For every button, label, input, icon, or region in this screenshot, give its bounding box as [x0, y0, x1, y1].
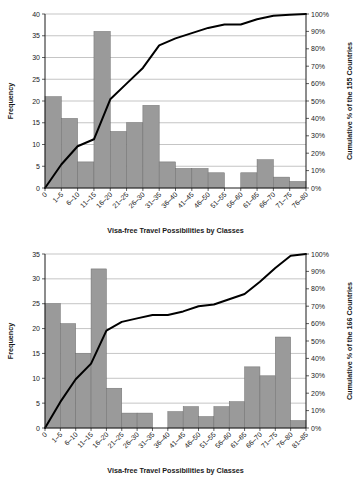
bar — [168, 412, 183, 428]
y2-tick-label: 100% — [311, 11, 329, 18]
y-tick-label: 40 — [32, 11, 40, 18]
chart-bottom-166-countries: 051015202530350%10%20%30%40%50%60%70%80%… — [0, 240, 358, 480]
bar — [61, 118, 77, 188]
y2-tick-label: 50% — [311, 338, 325, 345]
chart-svg-top: 05101520253035400%10%20%30%40%50%60%70%8… — [0, 0, 358, 240]
x-category-label: 71–75 — [274, 191, 293, 210]
bar — [257, 160, 273, 188]
bar — [183, 407, 198, 428]
x-category-label: 81–85 — [290, 431, 309, 450]
x-category-label: 41–45 — [176, 191, 195, 210]
y2-axis-title: Cumulative % of the 155 Countries — [345, 42, 354, 160]
bar — [199, 417, 214, 428]
y-tick-label: 20 — [32, 98, 40, 105]
y-tick-label: 25 — [32, 76, 40, 83]
bar — [110, 131, 126, 188]
y2-tick-label: 90% — [311, 28, 325, 35]
x-category-label: 61–65 — [229, 431, 248, 450]
x-category-label: 46–50 — [193, 191, 212, 210]
y-tick-label: 5 — [36, 163, 40, 170]
y2-tick-label: 20% — [311, 150, 325, 157]
x-category-label: 51–55 — [209, 191, 228, 210]
y-tick-label: 0 — [36, 425, 40, 432]
x-category-label: 16–20 — [91, 431, 110, 450]
x-category-label: 26–30 — [122, 431, 141, 450]
x-category-label: 51–55 — [198, 431, 217, 450]
bar — [143, 105, 159, 188]
bar — [291, 421, 306, 428]
bar — [122, 413, 137, 428]
bars-bottom — [45, 269, 306, 428]
y2-tick-label: 0% — [311, 185, 321, 192]
y2-axis-title: Cumulative % of the 166 Countries — [345, 282, 354, 400]
bar — [260, 376, 275, 428]
x-category-label: 66–70 — [244, 431, 263, 450]
y-tick-label: 30 — [32, 54, 40, 61]
x-category-label: 0 — [40, 431, 48, 439]
x-category-label: 31–35 — [137, 431, 156, 450]
y2-tick-label: 90% — [311, 268, 325, 275]
bar — [273, 177, 289, 188]
x-category-label: 36–40 — [152, 431, 171, 450]
x-category-label: 56–60 — [214, 431, 233, 450]
bar — [176, 168, 192, 188]
y2-tick-label: 100% — [311, 251, 329, 258]
x-category-label: 16–20 — [95, 191, 114, 210]
bar — [159, 162, 175, 188]
y2-tick-label: 80% — [311, 45, 325, 52]
x-category-label: 36–40 — [160, 191, 179, 210]
bars-top — [45, 31, 306, 188]
y2-tick-label: 10% — [311, 167, 325, 174]
bar — [229, 402, 244, 428]
y2-tick-label: 20% — [311, 390, 325, 397]
bar — [275, 337, 290, 428]
x-category-label: 1–5 — [50, 431, 63, 444]
x-axis-title: Visa-free Travel Possibilities by Classe… — [107, 466, 244, 475]
y2-tick-label: 60% — [311, 80, 325, 87]
bar — [127, 123, 143, 188]
x-category-label: 21–25 — [106, 431, 125, 450]
x-category-label: 26–30 — [127, 191, 146, 210]
x-category-label: 76–80 — [290, 191, 309, 210]
y-tick-label: 35 — [32, 32, 40, 39]
y2-tick-label: 70% — [311, 303, 325, 310]
bar — [208, 173, 224, 188]
y2-tick-label: 70% — [311, 63, 325, 70]
y-tick-label: 30 — [32, 275, 40, 282]
y2-tick-label: 0% — [311, 425, 321, 432]
bar — [214, 407, 229, 428]
y2-tick-label: 40% — [311, 115, 325, 122]
x-category-label: 1–5 — [51, 191, 64, 204]
x-category-label: 41–45 — [168, 431, 187, 450]
bar — [241, 173, 257, 188]
y2-tick-label: 50% — [311, 98, 325, 105]
y-tick-label: 10 — [32, 141, 40, 148]
bar — [245, 367, 260, 428]
x-category-label: 11–15 — [79, 191, 97, 209]
bar — [137, 413, 152, 428]
y-tick-label: 5 — [36, 400, 40, 407]
x-category-label: 21–25 — [111, 191, 130, 210]
chart-top-155-countries: 05101520253035400%10%20%30%40%50%60%70%8… — [0, 0, 358, 240]
y-tick-label: 15 — [32, 350, 40, 357]
chart-svg-bottom: 051015202530350%10%20%30%40%50%60%70%80%… — [0, 240, 358, 480]
y-tick-label: 10 — [32, 375, 40, 382]
y-tick-label: 20 — [32, 325, 40, 332]
x-category-label: 76–80 — [275, 431, 294, 450]
y2-tick-label: 30% — [311, 132, 325, 139]
y-tick-label: 35 — [32, 251, 40, 258]
bar — [290, 181, 306, 188]
bar — [45, 304, 60, 428]
y2-tick-label: 60% — [311, 320, 325, 327]
y-tick-label: 15 — [32, 119, 40, 126]
figure-page: 05101520253035400%10%20%30%40%50%60%70%8… — [0, 0, 358, 480]
y2-tick-label: 80% — [311, 285, 325, 292]
y2-tick-label: 10% — [311, 407, 325, 414]
bar — [45, 97, 61, 188]
bar — [106, 388, 121, 428]
bar — [192, 168, 208, 188]
y-axis-title: Frequency — [6, 83, 15, 119]
bar — [60, 324, 75, 428]
bar — [78, 162, 94, 188]
x-axis-title: Visa-free Travel Possibilities by Classe… — [107, 226, 244, 235]
